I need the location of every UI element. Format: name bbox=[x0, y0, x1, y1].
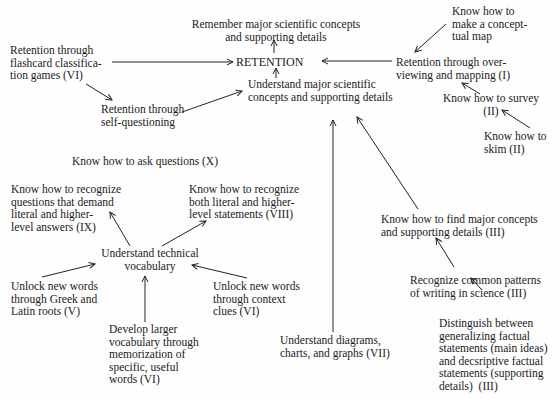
edge-greek-vocab bbox=[42, 264, 95, 277]
node-greek-latin: Unlock new words through Greek and Latin… bbox=[11, 280, 98, 318]
node-patterns: Recognize common patterns of writing in … bbox=[410, 274, 541, 299]
node-understand-major: Understand major scientific concepts and… bbox=[248, 78, 393, 103]
edge-patterns-findmajor bbox=[436, 238, 454, 267]
node-retention: RETENTION bbox=[236, 56, 303, 69]
node-diagrams: Understand diagrams, charts, and graphs … bbox=[280, 334, 390, 359]
node-conceptual-map: Know how to make a concept- tual map bbox=[452, 5, 527, 43]
edge-selfq-understand bbox=[182, 91, 242, 112]
node-recognize-statements: Know how to recognize both literal and h… bbox=[189, 183, 299, 221]
node-distinguish: Distinguish between generalizing factual… bbox=[439, 317, 548, 392]
diagram-canvas: Remember major scientific concepts and s… bbox=[0, 0, 560, 400]
node-context-clues: Unlock new words through context clues (… bbox=[213, 280, 300, 318]
node-flashcard: Retention through flashcard classifica- … bbox=[10, 44, 102, 82]
edge-findmajor-understand bbox=[357, 117, 418, 209]
edge-flashcard-selfq bbox=[86, 84, 112, 100]
edge-vocab-statements bbox=[162, 221, 206, 246]
node-find-major: Know how to find major concepts and supp… bbox=[381, 213, 538, 238]
node-self-questioning: Retention through self-questioning bbox=[101, 103, 184, 128]
node-skim: Know how to skim (II) bbox=[484, 130, 547, 155]
node-remember: Remember major scientific concepts and s… bbox=[191, 18, 361, 43]
edge-map-overviewing bbox=[415, 24, 446, 52]
node-technical-vocab: Understand technical vocabulary bbox=[90, 247, 210, 272]
node-memorization: Develop larger vocabulary through memori… bbox=[109, 323, 199, 386]
node-overviewing: Retention through over- viewing and mapp… bbox=[396, 56, 510, 81]
node-ask-questions: Know how to ask questions (X) bbox=[72, 155, 218, 168]
node-recognize-questions: Know how to recognize questions that dem… bbox=[11, 183, 121, 233]
node-survey: Know how to survey (II) bbox=[436, 92, 546, 117]
